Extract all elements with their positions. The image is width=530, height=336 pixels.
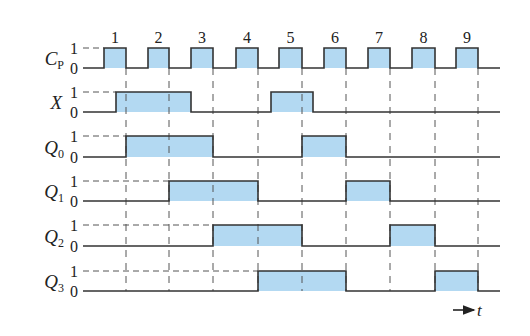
signal-waveforms [83, 48, 500, 291]
signal-label: Q2 [44, 226, 64, 250]
signal-fills [104, 48, 478, 291]
high-level-fill [412, 48, 435, 68]
clock-pulse-number: 1 [111, 29, 119, 46]
high-level-fill [302, 136, 346, 157]
high-level-fill [346, 181, 390, 201]
high-level-fill [279, 48, 302, 68]
level-0-label: 0 [70, 193, 78, 210]
clock-pulse-number: 9 [463, 29, 471, 46]
signal-label: Q0 [44, 137, 64, 161]
level-1-label: 1 [70, 40, 78, 57]
level-1-label: 1 [70, 263, 78, 280]
signal-label: Q1 [44, 181, 64, 205]
high-level-fill [191, 48, 213, 68]
high-level-fill [368, 48, 390, 68]
signal-label: X [49, 92, 63, 113]
level-0-label: 0 [70, 283, 78, 300]
clock-pulse-number: 5 [287, 29, 295, 46]
high-level-fill [435, 271, 478, 291]
high-level-fill [116, 92, 191, 112]
level-0-label: 0 [70, 60, 78, 77]
level-1-label: 1 [70, 173, 78, 190]
timing-diagram: CP10X10Q010Q110Q210Q310 123456789 t [0, 0, 530, 336]
level-0-label: 0 [70, 149, 78, 166]
high-level-fill [148, 48, 169, 68]
level-0-label: 0 [70, 104, 78, 121]
level-1-label: 1 [70, 128, 78, 145]
signal-labels: CP10X10Q010Q110Q210Q310 [44, 40, 78, 300]
clock-pulse-number: 4 [243, 29, 251, 46]
high-level-fill [456, 48, 478, 68]
level-1-label: 1 [70, 84, 78, 101]
signal-label: Q3 [44, 271, 64, 295]
clock-pulse-numbers: 123456789 [111, 29, 471, 46]
level-1-label: 1 [70, 217, 78, 234]
clock-pulse-number: 6 [331, 29, 339, 46]
clock-pulse-number: 7 [375, 29, 383, 46]
high-level-fill [324, 48, 346, 68]
level-0-label: 0 [70, 238, 78, 255]
time-axis: t [453, 301, 483, 320]
high-level-fill [236, 48, 258, 68]
time-axis-label: t [477, 301, 483, 320]
high-level-fill [271, 92, 313, 112]
clock-pulse-number: 2 [155, 29, 163, 46]
high-level-fill [104, 48, 126, 68]
clock-pulse-number: 3 [198, 29, 206, 46]
signal-label: CP [45, 48, 65, 72]
high-level-fill [390, 225, 435, 246]
clock-pulse-number: 8 [420, 29, 428, 46]
waveform-q1 [83, 181, 500, 201]
